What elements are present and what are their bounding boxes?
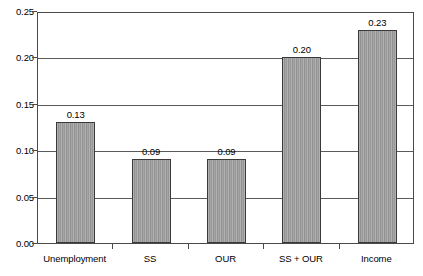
y-axis-tick-label: 0.05: [2, 193, 34, 203]
bar-value-label: 0.13: [42, 109, 109, 120]
y-axis-tick-label: 0.15: [2, 100, 34, 110]
bar-value-label: 0.09: [118, 146, 185, 157]
x-axis-tick-label: Unemployment: [43, 253, 106, 265]
bar[interactable]: [56, 122, 95, 243]
bar-group: 0.20: [282, 11, 321, 243]
x-axis-tick-mark: [263, 244, 264, 249]
bar[interactable]: [358, 30, 397, 243]
plot-area: 0.130.090.090.200.23: [37, 12, 414, 244]
bar[interactable]: [132, 159, 171, 243]
bar-group: 0.23: [358, 11, 397, 243]
x-axis-tick-mark: [339, 244, 340, 249]
y-axis-tick-label: 0.00: [2, 239, 34, 249]
y-axis-tick-label: 0.10: [2, 146, 34, 156]
y-axis: 0.250.200.150.100.050.00: [0, 0, 34, 276]
bar-value-label: 0.09: [193, 146, 260, 157]
bar-value-label: 0.20: [268, 44, 335, 55]
bar-group: 0.09: [207, 11, 246, 243]
y-axis-tick-label: 0.25: [2, 7, 34, 17]
x-axis-tick-label: OUR: [215, 253, 236, 265]
bar-group: 0.13: [56, 11, 95, 243]
x-axis-tick-mark: [112, 244, 113, 249]
bar-group: 0.09: [132, 11, 171, 243]
y-axis-tick-label: 0.20: [2, 53, 34, 63]
x-axis-tick-label: SS: [144, 253, 156, 265]
x-axis-tick-label: SS + OUR: [279, 253, 323, 265]
x-axis-tick-mark: [188, 244, 189, 249]
bar[interactable]: [282, 57, 321, 243]
x-axis-tick-label: Income: [361, 253, 392, 265]
bar-chart: 0.250.200.150.100.050.00 0.130.090.090.2…: [0, 0, 423, 276]
bar-value-label: 0.23: [344, 17, 411, 28]
bar[interactable]: [207, 159, 246, 243]
